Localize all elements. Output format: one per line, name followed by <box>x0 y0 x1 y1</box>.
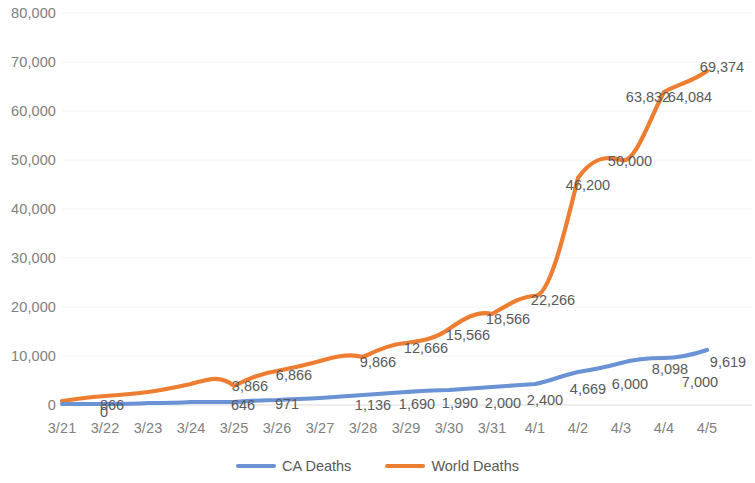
x-axis-tick: 3/22 <box>91 420 120 436</box>
x-axis-tick: 4/5 <box>697 420 717 436</box>
data-label: 6,000 <box>612 376 648 392</box>
data-label: 9,866 <box>360 354 396 370</box>
data-label: 12,666 <box>404 340 448 356</box>
x-axis-tick: 3/23 <box>134 420 163 436</box>
x-axis-tick: 3/27 <box>306 420 335 436</box>
legend-item-ca-deaths[interactable]: CA Deaths <box>236 458 351 474</box>
x-axis-tick: 3/26 <box>263 420 292 436</box>
y-axis-tick: 10,000 <box>0 348 56 364</box>
data-label: 22,266 <box>531 292 575 308</box>
y-axis-tick: 40,000 <box>0 201 56 217</box>
x-axis-tick: 3/21 <box>48 420 77 436</box>
x-axis-tick: 4/3 <box>611 420 631 436</box>
x-axis-tick: 4/1 <box>525 420 545 436</box>
x-axis-tick: 3/31 <box>478 420 507 436</box>
data-label: 971 <box>275 396 299 412</box>
data-label: 0 <box>100 404 108 420</box>
y-axis-tick: 20,000 <box>0 299 56 315</box>
legend-label: World Deaths <box>431 458 519 474</box>
data-label: 1,690 <box>399 396 435 412</box>
legend-swatch-icon <box>236 464 276 468</box>
data-label: 6,866 <box>276 367 312 383</box>
data-label: 2,400 <box>527 392 563 408</box>
x-axis-tick: 3/28 <box>349 420 378 436</box>
x-axis-tick: 3/24 <box>177 420 206 436</box>
data-label: 69,374 <box>700 59 744 75</box>
data-label: 9,619 <box>710 354 746 370</box>
data-label: 1,990 <box>442 395 478 411</box>
data-label: 2,000 <box>485 395 521 411</box>
y-axis-tick: 50,000 <box>0 152 56 168</box>
data-label: 46,200 <box>566 177 610 193</box>
data-label: 18,566 <box>486 311 530 327</box>
gridlines <box>62 13 752 356</box>
data-label: 50,000 <box>608 153 652 169</box>
series-line-world-deaths <box>62 71 707 401</box>
x-axis-tick: 3/30 <box>435 420 464 436</box>
y-axis-tick: 30,000 <box>0 250 56 266</box>
x-axis-tick: 3/25 <box>220 420 249 436</box>
y-axis-tick: 80,000 <box>0 5 56 21</box>
x-axis-tick: 4/4 <box>654 420 674 436</box>
data-label: 3,866 <box>232 378 268 394</box>
x-axis-tick: 4/2 <box>568 420 588 436</box>
data-label: 4,669 <box>570 381 606 397</box>
legend-swatch-icon <box>385 464 425 468</box>
y-axis-tick: 70,000 <box>0 54 56 70</box>
chart-legend: CA Deaths World Deaths <box>0 458 755 474</box>
y-axis-tick: 0 <box>0 397 56 413</box>
data-label: 646 <box>231 397 255 413</box>
y-axis-tick: 60,000 <box>0 103 56 119</box>
data-label: 63,832 <box>626 89 670 105</box>
data-label: 1,136 <box>355 397 391 413</box>
data-label: 7,000 <box>682 374 718 390</box>
x-axis-tick: 3/29 <box>392 420 421 436</box>
data-label: 64,084 <box>668 89 712 105</box>
legend-label: CA Deaths <box>282 458 351 474</box>
data-label: 15,566 <box>446 327 490 343</box>
line-chart: 80,000 70,000 60,000 50,000 40,000 30,00… <box>0 0 755 483</box>
legend-item-world-deaths[interactable]: World Deaths <box>385 458 519 474</box>
